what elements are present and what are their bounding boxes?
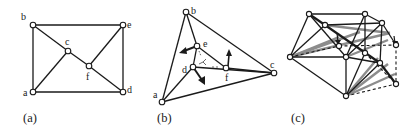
node: [377, 60, 382, 65]
node: [362, 50, 367, 55]
node-c: [271, 70, 277, 76]
node: [336, 43, 341, 48]
node: [343, 93, 348, 98]
caption-c: (c): [291, 111, 305, 125]
node-d: [120, 89, 126, 95]
label-c: c: [270, 59, 275, 70]
label-f: f: [225, 72, 229, 83]
node: [322, 22, 327, 27]
node: [393, 42, 398, 47]
label-e: e: [127, 19, 132, 30]
panel-b-graph: a b c d e f (b): [153, 5, 277, 125]
label-b: b: [191, 5, 196, 16]
label-d: d: [182, 64, 187, 75]
node: [306, 11, 311, 16]
panel-a-graph: a b c d e f (a): [21, 11, 132, 125]
label-d: d: [127, 84, 132, 95]
panel-c-folding-structure: (c): [287, 11, 398, 125]
node-f: [86, 63, 92, 69]
label-e: e: [203, 38, 208, 49]
node-e: [120, 22, 126, 28]
label-a: a: [23, 87, 28, 98]
node-b: [183, 9, 189, 15]
node-a: [159, 99, 165, 105]
node-d: [190, 64, 196, 70]
center-y-mark: [199, 59, 206, 65]
node-f: [223, 65, 229, 71]
figure-canvas: a b c d e f (a): [0, 0, 418, 131]
label-b: b: [21, 11, 26, 22]
label-a: a: [153, 89, 158, 100]
caption-a: (a): [23, 111, 37, 125]
node: [393, 81, 398, 86]
node: [362, 11, 367, 16]
arrow-f-up-icon: [226, 49, 232, 66]
caption-b: (b): [157, 111, 172, 125]
label-c: c: [65, 36, 70, 47]
node: [379, 20, 384, 25]
label-f: f: [86, 71, 90, 82]
node-b: [30, 22, 36, 28]
node-a: [30, 89, 36, 95]
node: [343, 54, 348, 59]
node: [287, 54, 292, 59]
node-e: [194, 43, 200, 49]
node-c: [65, 48, 71, 54]
